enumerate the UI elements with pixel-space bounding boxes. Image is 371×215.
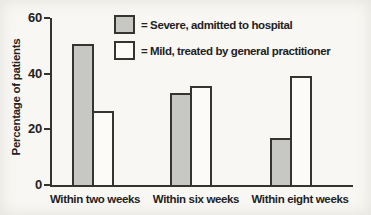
y-tick (44, 17, 50, 19)
y-tick (44, 184, 50, 186)
bar-severe-1 (170, 93, 192, 187)
bar-mild-1 (190, 86, 212, 187)
x-tick-label: Within eight weeks (230, 192, 370, 206)
bar-chart-figure: Percentage of patients = Severe, admitte… (0, 0, 371, 215)
bar-severe-2 (270, 138, 292, 187)
bar-mild-2 (290, 76, 312, 187)
x-axis-line (50, 185, 353, 187)
y-axis-line (50, 18, 52, 185)
y-tick-label: 40 (14, 66, 42, 82)
y-tick (44, 73, 50, 75)
bar-mild-0 (92, 111, 114, 187)
y-tick-label: 60 (14, 10, 42, 26)
y-tick-label: 0 (14, 177, 42, 193)
y-tick-label: 20 (14, 121, 42, 137)
bar-severe-0 (72, 44, 94, 187)
plot-area: 0204060Within two weeksWithin six weeksW… (0, 0, 371, 215)
y-tick (44, 128, 50, 130)
